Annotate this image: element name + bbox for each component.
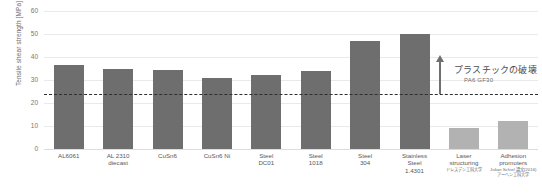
- bar-slot: [54, 11, 84, 149]
- x-label-steel-dc01: SteelDC01: [242, 152, 291, 167]
- x-label-steel-304: Steel304: [340, 152, 389, 167]
- x-label-line2: diecast: [93, 159, 142, 166]
- x-label-adhesion-promoters: AdhesionpromotersJulian Schiel 論文(2016)ア…: [489, 152, 538, 177]
- x-label-steel-1018: Steel1018: [291, 152, 340, 167]
- bar-slot: [103, 11, 133, 149]
- bar-chart: Tensile shear strength [MPa] 60504030201…: [0, 0, 542, 194]
- x-label-line2: 1018: [291, 159, 340, 166]
- x-label-line1: CuSn6: [158, 152, 177, 159]
- x-label-line2: Steel: [390, 159, 439, 166]
- y-tick-label-50: 50: [12, 30, 38, 37]
- arrow-shaft: [439, 60, 441, 94]
- bar-adhesion-promoters: [498, 121, 528, 149]
- x-label-line1: Steel: [259, 152, 273, 159]
- x-label-line1: Steel: [358, 152, 372, 159]
- bar-steel-304: [350, 41, 380, 149]
- x-label-line2: structuring: [439, 159, 488, 166]
- plot-area: 6050403020100 プラスチックの破壊 PA6 GF30: [44, 11, 538, 149]
- x-label-cusn6: CuSn6: [143, 152, 192, 159]
- bar-slot: [350, 11, 380, 149]
- x-label-al6061: AL6061: [44, 152, 93, 159]
- x-label-stainless-steel-1-4301: StainlessSteel1.4301: [390, 152, 439, 174]
- x-axis-labels: AL6061AL 2310diecastCuSn6CuSn6 NiSteelDC…: [44, 152, 538, 194]
- x-label-line1: Steel: [309, 152, 323, 159]
- x-label-line3: 1.4301: [390, 167, 439, 174]
- x-label-line2: 304: [340, 159, 389, 166]
- x-label-line1: CuSn6 Ni: [204, 152, 230, 159]
- bar-slot: [301, 11, 331, 149]
- up-arrow-icon: [435, 55, 445, 94]
- x-label-cusn6-ni: CuSn6 Ni: [192, 152, 241, 159]
- x-label-line2: promoters: [489, 159, 538, 166]
- bar-al-2310-diecast: [103, 69, 133, 150]
- bar-slot: [251, 11, 281, 149]
- x-label-source-note-ja: アーヘン工科大学: [489, 172, 538, 177]
- x-label-line1: AL6061: [58, 152, 79, 159]
- bar-cusn6-ni: [202, 78, 232, 149]
- x-label-line1: AL 2310: [107, 152, 130, 159]
- y-tick-label-30: 30: [12, 76, 38, 83]
- bar-stainless-steel-1-4301: [400, 34, 430, 149]
- x-label-line1: Stainless: [402, 152, 427, 159]
- bar-steel-dc01: [251, 75, 281, 149]
- y-tick-label-60: 60: [12, 7, 38, 14]
- bar-al6061: [54, 65, 84, 149]
- y-tick-label-0: 0: [12, 145, 38, 152]
- bar-cusn6: [153, 70, 183, 149]
- x-label-line2: DC01: [242, 159, 291, 166]
- bar-slot: [153, 11, 183, 149]
- y-tick-label-20: 20: [12, 99, 38, 106]
- x-label-laser-structuring: Laserstructuringドレスデン工科大学: [439, 152, 488, 172]
- bar-laser-structuring: [449, 128, 479, 149]
- y-tick-label-40: 40: [12, 53, 38, 60]
- y-tick-label-10: 10: [12, 122, 38, 129]
- plastic-failure-callout: プラスチックの破壊 PA6 GF30: [454, 63, 537, 83]
- bar-steel-1018: [301, 71, 331, 149]
- bar-slot: [400, 11, 430, 149]
- gridline-0: [44, 149, 538, 150]
- x-label-source-note-ja: ドレスデン工科大学: [439, 167, 488, 172]
- threshold-dashed-line: [44, 94, 538, 95]
- x-label-al-2310-diecast: AL 2310diecast: [93, 152, 142, 167]
- x-label-line1: Laser: [456, 152, 471, 159]
- x-label-line1: Adhesion: [500, 152, 526, 159]
- bar-slot: [202, 11, 232, 149]
- callout-main-text: プラスチックの破壊: [454, 63, 537, 76]
- callout-sub-text: PA6 GF30: [464, 77, 537, 83]
